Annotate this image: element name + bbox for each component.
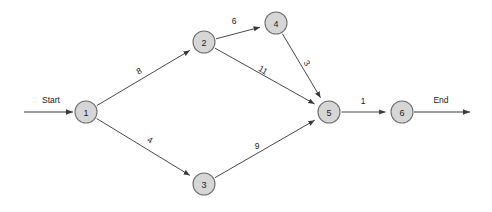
edge-weight-1-3: 4	[145, 134, 154, 145]
edge-2-to-4	[216, 27, 260, 39]
edge-weight-5-6: 1	[361, 96, 366, 106]
edges-group	[97, 27, 386, 178]
terminal-labels-group: StartEnd	[42, 95, 449, 105]
node-3-label: 3	[201, 180, 206, 190]
edge-1-to-3	[97, 119, 190, 176]
edge-weight-1-2: 8	[134, 65, 143, 76]
edge-weight-3-5: 9	[255, 141, 260, 151]
node-2-label: 2	[201, 38, 206, 48]
node-5-label: 5	[326, 108, 331, 118]
edge-weight-2-4: 6	[232, 16, 237, 26]
node-5[interactable]: 5	[318, 101, 340, 123]
edge-4-to-5	[282, 34, 320, 98]
edge-3-to-5	[215, 120, 315, 178]
edge-2-to-5	[215, 48, 315, 104]
node-1[interactable]: 1	[75, 101, 97, 123]
node-6[interactable]: 6	[391, 101, 413, 123]
node-2[interactable]: 2	[193, 31, 215, 53]
edge-weight-2-5: 11	[257, 63, 270, 76]
diagram-canvas: 123456 84611391 StartEnd	[0, 0, 492, 212]
edge-1-to-2	[97, 50, 190, 105]
edge-weight-4-5: 3	[301, 58, 312, 67]
node-4[interactable]: 4	[265, 12, 287, 34]
edge-labels-group: 84611391	[134, 16, 365, 151]
start-label: Start	[42, 95, 61, 105]
node-4-label: 4	[273, 19, 278, 29]
network-diagram: 123456 84611391 StartEnd	[0, 0, 492, 212]
node-3[interactable]: 3	[193, 173, 215, 195]
end-label: End	[433, 95, 448, 105]
node-6-label: 6	[399, 108, 404, 118]
node-1-label: 1	[83, 108, 88, 118]
